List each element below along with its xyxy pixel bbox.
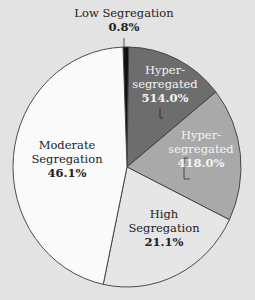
slice-percent: 418.0% [168, 156, 233, 170]
slice-label: Hyper- [132, 63, 197, 77]
label-high-segregation: High Segregation 21.1% [128, 207, 199, 249]
label-moderate-segregation: Moderate Segregation 46.1% [31, 138, 102, 180]
slice-percent: 514.0% [132, 91, 197, 105]
slice-percent: 46.1% [31, 166, 102, 180]
label-hyper-segregated-1: Hyper- segregated 514.0% [132, 63, 197, 105]
slice-label: Hyper- [168, 128, 233, 142]
slice-percent: 21.1% [128, 235, 199, 249]
slice-label: segregated [132, 77, 197, 91]
label-low-segregation: Low Segregation 0.8% [74, 6, 173, 34]
slice-label: Segregation [31, 152, 102, 166]
slice-label: segregated [168, 142, 233, 156]
slice-label: Moderate [31, 138, 102, 152]
slice-percent: 0.8% [74, 20, 173, 34]
slice-label: High [128, 207, 199, 221]
slice-label: Segregation [128, 221, 199, 235]
slice-label: Low Segregation [74, 6, 173, 20]
label-hyper-segregated-2: Hyper- segregated 418.0% [168, 128, 233, 170]
